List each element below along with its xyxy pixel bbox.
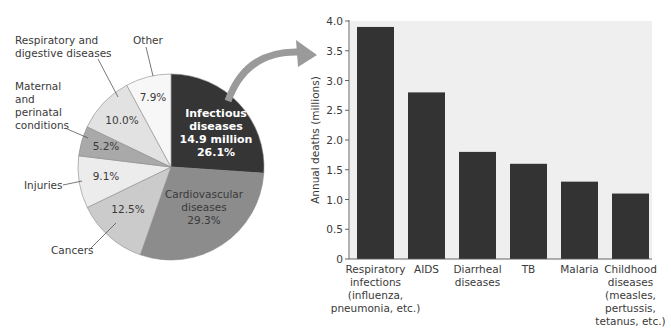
y-tick-label: 2.0 xyxy=(326,134,343,146)
bar xyxy=(612,194,649,259)
maternal-pct: 5.2% xyxy=(93,140,120,152)
callout-maternal-1: Maternal xyxy=(15,80,61,92)
x-category-label: TB xyxy=(521,263,536,275)
x-category-labels: Respiratoryinfections(influenza,pneumoni… xyxy=(331,263,666,327)
y-tick-label: 3.5 xyxy=(326,45,343,57)
pie-chart xyxy=(78,74,264,260)
infectious-label-1: Infectious xyxy=(185,107,247,120)
bar xyxy=(459,152,496,259)
y-tick-label: 1.5 xyxy=(326,164,343,176)
infectious-label-4: 26.1% xyxy=(197,146,235,159)
y-tick-label: 0.5 xyxy=(326,223,343,235)
injuries-pct: 9.1% xyxy=(93,170,120,182)
y-tick-label: 4.0 xyxy=(326,15,343,27)
x-category-label: Malaria xyxy=(560,263,599,275)
infectious-label-2: diseases xyxy=(189,120,243,133)
callout-injuries: Injuries xyxy=(24,179,63,191)
y-axis-label: Annual deaths (millions) xyxy=(309,76,321,204)
leader-line-other xyxy=(146,47,153,76)
cardio-label-3: 29.3% xyxy=(187,214,220,226)
x-category-label: Diarrheal xyxy=(453,263,501,275)
x-category-label: diseases xyxy=(608,276,653,288)
x-category-label: (influenza, xyxy=(348,289,403,301)
infectious-label-3: 14.9 million xyxy=(180,133,253,146)
bar xyxy=(357,27,394,259)
callout-maternal-2: and xyxy=(15,93,35,105)
callout-cancers: Cancers xyxy=(51,244,93,256)
y-tick-label: 2.5 xyxy=(326,104,343,116)
bar xyxy=(408,92,445,259)
callout-resp-digestive-2: digestive diseases xyxy=(15,47,112,59)
x-category-label: Respiratory xyxy=(345,263,405,275)
y-tick-label: 0 xyxy=(336,253,343,265)
callout-resp-digestive-1: Respiratory and xyxy=(15,34,98,46)
cardio-label-2: diseases xyxy=(181,201,226,213)
cancers-pct: 12.5% xyxy=(111,203,144,215)
x-category-label: Childhood xyxy=(604,263,657,275)
leader-line-resp xyxy=(98,59,118,97)
callout-maternal-3: perinatal xyxy=(15,106,62,118)
y-tick-label: 1.0 xyxy=(326,194,343,206)
x-category-label: infections xyxy=(350,276,401,288)
y-tick-label: 3.0 xyxy=(326,75,343,87)
x-category-label: (measles, xyxy=(605,289,656,301)
x-category-label: pneumonia, etc.) xyxy=(331,302,421,314)
x-category-label: AIDS xyxy=(414,263,439,275)
callout-maternal-4: conditions xyxy=(15,119,69,131)
bar xyxy=(561,182,598,259)
other-pct: 7.9% xyxy=(140,91,167,103)
bar-chart: 00.51.01.52.02.53.03.54.0 Annual deaths … xyxy=(309,15,666,327)
callout-other: Other xyxy=(133,34,163,46)
arrow-icon xyxy=(228,40,317,101)
x-category-label: tetanus, etc.) xyxy=(595,315,665,327)
y-ticks: 00.51.01.52.02.53.03.54.0 xyxy=(326,15,349,265)
x-category-label: pertussis, xyxy=(605,302,656,314)
x-category-label: diseases xyxy=(455,276,500,288)
plot-background xyxy=(350,21,652,259)
cardio-label-1: Cardiovascular xyxy=(165,188,244,200)
resp-digestive-pct: 10.0% xyxy=(105,114,138,126)
bar xyxy=(510,164,547,259)
chart-canvas: Infectious diseases 14.9 million 26.1% C… xyxy=(0,0,671,330)
